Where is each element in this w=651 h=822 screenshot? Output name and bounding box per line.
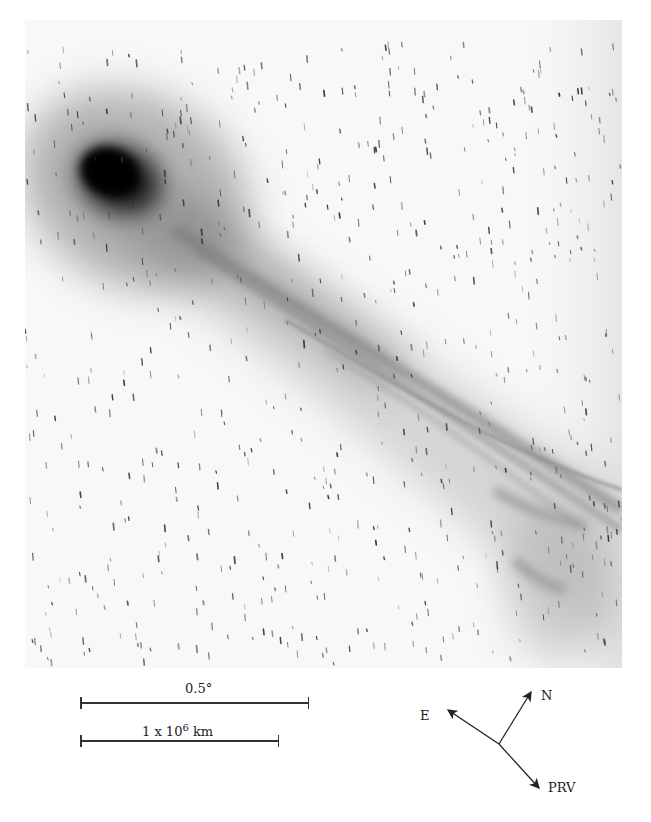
angular-scale-bar [80, 697, 309, 709]
prv-label: PRV [548, 780, 575, 795]
distance-scale-bar [80, 735, 279, 747]
angular-scale-label: 0.5° [185, 681, 212, 696]
orientation-compass: N E PRV [400, 650, 600, 820]
east-label: E [420, 708, 430, 723]
comet-photograph [25, 20, 622, 668]
north-arrow [499, 692, 531, 744]
east-arrow [448, 710, 499, 744]
prv-arrow [499, 744, 539, 788]
north-label: N [541, 688, 552, 703]
